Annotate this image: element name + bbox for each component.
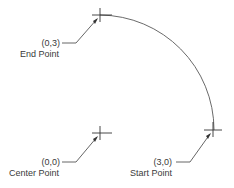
center-point-name-label: Center Point — [9, 168, 60, 178]
center-point-leader — [62, 136, 98, 162]
start-point-leader — [176, 133, 211, 162]
arc-diagram: (0,3) End Point (0,0) Center Point (3,0)… — [0, 0, 234, 188]
start-point-coord-label: (3,0) — [153, 157, 172, 167]
start-point-marker — [204, 122, 222, 137]
arc-curve — [100, 15, 214, 130]
start-point-name-label: Start Point — [130, 168, 173, 178]
end-point-name-label: End Point — [20, 49, 60, 59]
end-point-coord-label: (0,3) — [41, 38, 60, 48]
end-point-leader — [62, 18, 98, 43]
center-point-coord-label: (0,0) — [41, 157, 60, 167]
